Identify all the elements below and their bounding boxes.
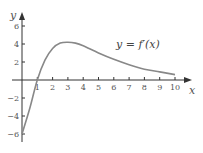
function-label: y = f′(x) [115, 38, 160, 51]
y-tick-label: 2 [14, 58, 19, 67]
y-tick-label: −4 [7, 112, 19, 121]
x-tick-label: 9 [157, 83, 162, 92]
x-ticks: 12345678910 [35, 77, 180, 92]
y-tick-label: 4 [14, 40, 19, 49]
y-tick-label: −6 [7, 130, 19, 139]
x-tick-label: 10 [170, 83, 180, 92]
y-tick-label: 6 [14, 22, 19, 31]
x-tick-label: 6 [111, 83, 116, 92]
x-tick-label: 3 [65, 83, 70, 92]
x-tick-label: 7 [127, 83, 132, 92]
x-tick-label: 5 [96, 83, 101, 92]
y-tick-label: −2 [7, 94, 19, 103]
x-tick-label: 8 [142, 83, 147, 92]
x-tick-label: 2 [50, 83, 55, 92]
x-axis-label: x [189, 84, 196, 97]
y-axis-label: y [9, 9, 17, 22]
x-tick-label: 4 [81, 83, 86, 92]
chart: 12345678910 642−2−4−6 x y y = f′(x) [0, 0, 203, 153]
y-axis [19, 12, 25, 142]
